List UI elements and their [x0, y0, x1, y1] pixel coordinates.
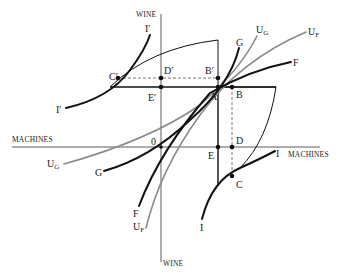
label-e: E — [208, 150, 214, 161]
axis-label-machines-right: MACHINES — [288, 150, 329, 159]
curve-f — [139, 62, 291, 206]
trade-diagram: WINE WINE MACHINES MACHINES C′ D′ E′ B′ … — [0, 0, 340, 275]
axis-label-machines-left: MACHINES — [12, 135, 53, 144]
indifference-curve-i-prime — [66, 35, 150, 108]
production-frontier-top — [110, 40, 218, 87]
label-f-bottom: F — [133, 208, 139, 219]
label-g-top: G — [236, 37, 243, 48]
point-origin — [159, 145, 163, 149]
label-g-bottom: G — [95, 167, 102, 178]
label-uf-bottom: UF — [133, 221, 144, 234]
label-origin: 0 — [151, 136, 156, 147]
point-d — [230, 145, 235, 150]
point-d-prime — [159, 76, 164, 81]
label-b-prime: B′ — [205, 65, 214, 76]
label-ug-bottom: UG — [47, 158, 59, 171]
label-c-prime: C′ — [109, 71, 118, 82]
curve-uf — [146, 32, 306, 228]
point-c — [230, 174, 235, 179]
label-i-bottom: I — [200, 222, 203, 233]
label-i-right: I — [276, 148, 279, 159]
label-d-prime: D′ — [164, 65, 173, 76]
point-e — [216, 145, 221, 150]
label-e-prime: E′ — [148, 92, 156, 103]
label-i-prime-top: I′ — [145, 23, 151, 34]
axis-label-wine-bottom: WINE — [163, 259, 184, 268]
label-ug-top: UG — [256, 24, 268, 37]
axis-label-wine-top: WINE — [136, 10, 157, 19]
label-c: C — [236, 179, 243, 190]
label-i-prime-left: I′ — [56, 104, 62, 115]
label-f-top: F — [293, 57, 299, 68]
point-b-prime — [216, 76, 221, 81]
label-d: D — [236, 135, 243, 146]
point-e-prime — [159, 85, 164, 90]
label-a: A — [210, 91, 218, 102]
point-b — [230, 85, 235, 90]
label-uf-top: UF — [308, 26, 319, 39]
label-b: B — [236, 89, 243, 100]
point-a — [216, 85, 221, 90]
